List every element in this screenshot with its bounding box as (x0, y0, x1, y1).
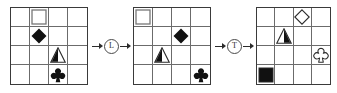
diamond-filled-icon (31, 28, 47, 44)
grid-cell-1-1-empty (257, 8, 275, 27)
grid-cell-1-2-square (30, 8, 49, 27)
triangle-half-filled-icon (154, 47, 170, 63)
club-filled-icon (193, 67, 209, 83)
grid-cell-2-1-empty (11, 27, 30, 46)
grid-cell-1-2-empty (275, 8, 293, 27)
grid-cell-4-2-empty (153, 65, 172, 84)
grid-cell-4-4-club (191, 65, 210, 84)
grid-cell-3-3-empty (294, 46, 312, 65)
grid-cell-2-1-empty (257, 27, 275, 46)
grid-cell-1-3-diamond (294, 8, 312, 27)
grid-cell-4-1-empty (11, 65, 30, 84)
grid-cell-3-1-empty (134, 46, 153, 65)
grid-cell-4-2-empty (30, 65, 49, 84)
grid-cell-2-1-empty (134, 27, 153, 46)
square-outline-icon (135, 9, 151, 25)
grid-cell-2-2-empty (153, 27, 172, 46)
grid-cell-4-1-empty (134, 65, 153, 84)
grid-cell-3-1-empty (257, 46, 275, 65)
grid-cell-1-3-empty (172, 8, 191, 27)
diamond-filled-icon (173, 28, 189, 44)
grid-cell-4-2-empty (275, 65, 293, 84)
grid-cell-2-3-diamond (172, 27, 191, 46)
grid-cell-3-2-triangle (153, 46, 172, 65)
square-filled-icon (258, 67, 274, 83)
grid-cell-1-1-empty (11, 8, 30, 27)
grid-cell-1-4-empty (68, 8, 87, 27)
grid-cell-3-4-club (312, 46, 330, 65)
grid-cell-4-1-square (257, 65, 275, 84)
club-outline-icon (313, 47, 329, 63)
grid-cell-3-3-empty (172, 46, 191, 65)
operator-badge-1: L (104, 39, 119, 54)
arrow-right-icon (215, 42, 226, 51)
grid-cell-3-2-empty (275, 46, 293, 65)
grid-cell-3-1-empty (11, 46, 30, 65)
grid-cell-1-4-empty (191, 8, 210, 27)
operator-badge-2: T (227, 39, 242, 54)
puzzle-grid-2 (133, 7, 211, 85)
transformation-sequence: L T (0, 0, 337, 93)
arrow-right-icon (120, 42, 131, 51)
grid-cell-3-2-empty (30, 46, 49, 65)
grid-cell-2-4-empty (312, 27, 330, 46)
grid-cell-4-3-empty (172, 65, 191, 84)
grid-cell-4-3-club (49, 65, 68, 84)
grid-cell-2-4-empty (191, 27, 210, 46)
grid-cell-2-3-empty (294, 27, 312, 46)
diamond-outline-icon (294, 9, 310, 25)
grid-cell-4-4-empty (68, 65, 87, 84)
grid-cell-2-3-empty (49, 27, 68, 46)
arrow-right-icon (243, 42, 254, 51)
grid-cell-3-4-empty (68, 46, 87, 65)
grid-cell-2-2-triangle (275, 27, 293, 46)
grid-cell-1-3-empty (49, 8, 68, 27)
club-filled-icon (50, 67, 66, 83)
grid-cell-3-3-triangle (49, 46, 68, 65)
connector-1: L (92, 39, 131, 53)
grid-cell-1-2-empty (153, 8, 172, 27)
square-outline-icon (31, 9, 47, 25)
grid-cell-2-4-empty (68, 27, 87, 46)
grid-cell-3-4-empty (191, 46, 210, 65)
arrow-right-icon (92, 42, 103, 51)
grid-cell-2-2-diamond (30, 27, 49, 46)
puzzle-grid-1 (10, 7, 88, 85)
triangle-half-filled-icon (50, 47, 66, 63)
grid-cell-4-4-empty (312, 65, 330, 84)
grid-cell-1-1-square (134, 8, 153, 27)
grid-cell-4-3-empty (294, 65, 312, 84)
triangle-half-filled-icon (276, 28, 292, 44)
grid-cell-1-4-empty (312, 8, 330, 27)
connector-2: T (215, 39, 254, 53)
puzzle-grid-3 (256, 7, 331, 85)
